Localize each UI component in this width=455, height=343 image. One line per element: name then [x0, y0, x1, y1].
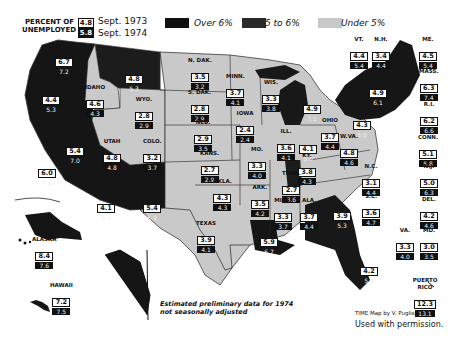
permission-note: Used with permission.: [355, 320, 443, 329]
state-ore: 4.45.3: [42, 87, 60, 113]
state-ark: ARK.3.54.2: [251, 184, 269, 217]
state-iowa: IOWA2.42.4: [236, 110, 254, 143]
state-wash: 6.77.2: [55, 49, 73, 75]
region-baja: [105, 250, 150, 315]
legend-sample-1974: 5.8: [78, 28, 94, 38]
state-ohio: OHIO3.74.4: [321, 117, 339, 150]
state-ri: R.I.6.26.6: [420, 101, 438, 134]
legend-swatch-over6: [165, 18, 189, 28]
state-nh: N.H.3.44.4: [372, 36, 390, 69]
state-texas: TEXAS3.94.1: [196, 220, 216, 253]
state-ariz: 4.15.7: [97, 195, 115, 221]
state-ill: ILL.3.64.1: [277, 128, 295, 161]
state-neb: NEB.2.93.5: [194, 119, 212, 152]
state-ndak: N. DAK.3.53.2: [188, 57, 212, 90]
state-nj: N.J.5.06.3: [420, 163, 438, 196]
state-me: ME.4.55.4: [419, 36, 437, 69]
footnote-line2: not seasonally adjusted: [160, 308, 293, 316]
state-calif-north: 5.47.0: [66, 138, 84, 164]
legend-label-over6: Over 6%: [194, 18, 233, 28]
state-vt: VT.4.45.4: [350, 36, 368, 69]
region-hawaii: [30, 300, 50, 312]
state-alaska: ALASKA8.47.6: [32, 236, 57, 269]
state-nmex: 5.45.9: [143, 195, 161, 221]
state-mass: MASS.6.37.4: [419, 68, 439, 101]
legend-sample-1973: 4.8: [78, 18, 94, 28]
legend-title-line1: PERCENT OF: [22, 18, 74, 26]
legend-label-1973: Sept. 1973: [98, 16, 147, 26]
state-wyo: WYO.2.82.9: [135, 96, 153, 129]
state-idaho: IDAHO4.64.3: [85, 84, 105, 117]
footnote: Estimated preliminary data for 1974 not …: [160, 300, 293, 316]
state-minn: MINN.3.74.1: [226, 73, 245, 106]
legend-label-5to6: 5 to 6%: [265, 18, 300, 28]
footnote-line1: Estimated preliminary data for 1974: [160, 300, 293, 308]
state-va: VA.3.34.0: [396, 227, 414, 260]
state-nc: N.C.3.14.4: [362, 163, 380, 196]
state-ga: 3.95.3: [333, 203, 351, 229]
state-okla: OKLA.4.34.3: [213, 178, 232, 211]
state-la: 5.96.7: [260, 229, 278, 255]
map-credit: TIME Map by V. Puglisi: [355, 310, 416, 316]
state-hawaii: HAWAII7.27.5: [50, 282, 73, 315]
legend-title: PERCENT OF UNEMPLOYED: [22, 18, 74, 34]
state-colo: COLO.3.23.7: [143, 138, 162, 171]
state-mont: 4.85.3: [125, 66, 143, 92]
state-utah: UTAH4.84.8: [103, 138, 121, 171]
legend-title-line2: UNEMPLOYED: [22, 26, 74, 34]
state-pa: 4.35.0: [353, 112, 371, 138]
state-sdak: S. DAK.2.82.9: [188, 89, 211, 122]
legend-swatch-under5: [318, 18, 342, 28]
state-calif: 6.07.1: [38, 160, 56, 186]
state-ny: 4.96.1: [369, 80, 387, 106]
state-miss: MISS.3.33.7: [274, 197, 292, 230]
state-del: DEL.4.24.6: [420, 196, 438, 229]
state-mich: 4.97.1: [303, 96, 321, 122]
state-ala: ALA.3.74.4: [300, 197, 318, 230]
state-md: MD.3.03.5: [420, 227, 438, 260]
state-mo: MO.3.34.0: [248, 146, 266, 179]
legend-swatch-5to6: [242, 18, 266, 28]
state-wis: WIS.3.33.8: [262, 79, 280, 112]
state-sc: S.C.3.64.7: [362, 193, 380, 226]
state-fla: 4.25.8: [360, 258, 378, 284]
legend-label-under5: Under 5%: [341, 18, 385, 28]
legend-label-1974: Sept. 1974: [98, 28, 147, 38]
